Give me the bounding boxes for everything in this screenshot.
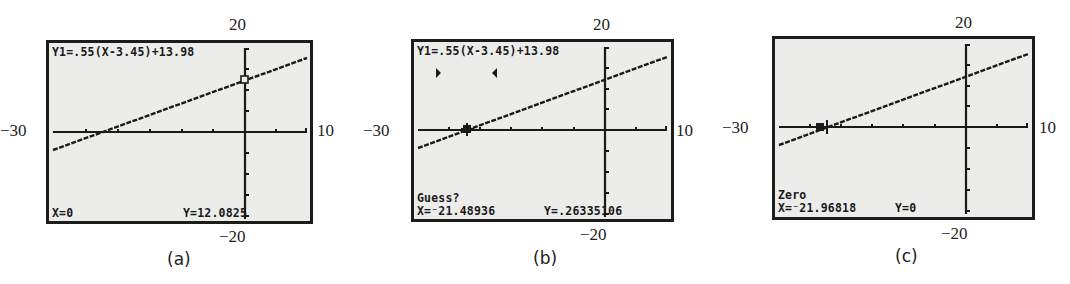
function-line — [779, 54, 1028, 145]
left-bound-marker — [492, 68, 497, 78]
status-text: Zero — [778, 189, 807, 201]
calculator-screen-b: Y1=.55(X-3.45)+13.98 Guess? X=⁻21.48936 … — [411, 39, 674, 222]
function-line — [418, 57, 667, 148]
x-value: X=⁻21.48936 — [417, 205, 495, 217]
right-bound-marker — [436, 68, 441, 78]
y-value: Y=12.0825 — [183, 207, 247, 219]
xmax-label: 10 — [1039, 119, 1056, 136]
axes — [53, 48, 307, 219]
graph-c — [775, 39, 1032, 217]
ymax-label: 20 — [955, 14, 972, 31]
calculator-screen-c: Zero X=⁻21.96818 Y=0 — [772, 36, 1035, 220]
caption-c: (c) — [895, 246, 918, 266]
caption-a: (a) — [167, 249, 191, 269]
graph-a — [49, 43, 310, 221]
xmin-label: −30 — [0, 122, 27, 139]
panel-c: 20 −30 10 −20 — [720, 0, 1070, 284]
x-value: X=0 — [52, 207, 73, 219]
ymin-label: −20 — [580, 226, 607, 243]
xmin-label: −30 — [363, 122, 390, 139]
xmax-label: 10 — [676, 122, 693, 139]
trace-cursor-cross — [461, 123, 474, 136]
trace-cursor-cross — [817, 120, 834, 134]
xmin-label: −30 — [722, 119, 749, 136]
function-expression: Y1=.55(X-3.45)+13.98 — [417, 45, 559, 57]
y-value: Y=0 — [895, 202, 916, 214]
xmax-label: 10 — [317, 122, 334, 139]
x-value: X=⁻21.96818 — [778, 202, 856, 214]
y-value: Y=.26335106 — [544, 205, 622, 217]
panel-a: 20 −30 10 −20 Y1=.55(X-3.45)+13.98 X=0 — [0, 0, 360, 284]
ymax-label: 20 — [229, 16, 246, 33]
ymin-label: −20 — [219, 228, 246, 245]
function-expression: Y1=.55(X-3.45)+13.98 — [52, 46, 194, 58]
function-line — [53, 58, 307, 150]
panel-b: 20 −30 10 −20 — [360, 0, 720, 284]
caption-b: (b) — [533, 248, 557, 268]
calculator-screen-a: Y1=.55(X-3.45)+13.98 X=0 Y=12.0825 — [46, 40, 313, 224]
trace-cursor-box — [241, 76, 248, 83]
ymin-label: −20 — [941, 225, 968, 242]
status-text: Guess? — [417, 192, 460, 204]
ymax-label: 20 — [593, 16, 610, 33]
